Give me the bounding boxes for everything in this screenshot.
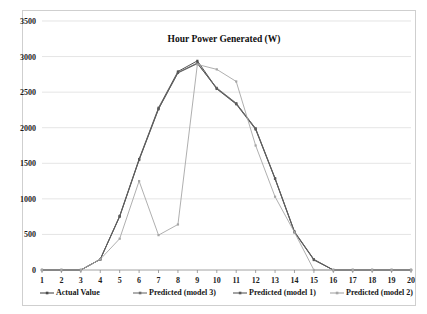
x-axis-tick-label: 17 [349, 276, 357, 285]
legend-swatch-marker [336, 292, 339, 295]
series-marker [80, 269, 82, 271]
x-axis-tick-label: 6 [137, 276, 141, 285]
series-marker [177, 71, 179, 73]
gridlines [42, 21, 411, 270]
series-marker [177, 223, 179, 225]
series-marker [274, 196, 276, 198]
x-axis-tick-label: 1 [40, 276, 44, 285]
legend-item-label[interactable]: Predicted (model 3) [149, 288, 216, 297]
legend-swatch-marker [139, 292, 142, 295]
y-axis-tick-label: 2500 [20, 88, 36, 97]
series-marker [255, 144, 257, 146]
legend-item-label[interactable]: Predicted (model 1) [249, 288, 316, 297]
x-axis-tick-label: 18 [368, 276, 376, 285]
x-axis-tick-label: 14 [290, 276, 298, 285]
y-axis-tick-label: 3500 [20, 17, 36, 26]
y-axis-tick-label: 3000 [20, 53, 36, 62]
series-marker [332, 269, 334, 271]
series-marker [157, 108, 159, 110]
series-marker [313, 259, 315, 261]
series-marker [274, 178, 276, 180]
series-marker [41, 269, 43, 271]
x-axis-tick-label: 16 [329, 276, 337, 285]
y-axis-tick-label: 500 [24, 230, 36, 239]
series-line [42, 64, 411, 270]
x-axis-tick-label: 15 [310, 276, 318, 285]
y-axis-tick-label: 2000 [20, 124, 36, 133]
series-marker [390, 269, 392, 271]
x-axis-tick-label: 13 [271, 276, 279, 285]
series-marker [371, 269, 373, 271]
x-axis-tick-label: 20 [407, 276, 415, 285]
y-axis-tick-label: 1500 [20, 159, 36, 168]
x-axis-tick-label: 2 [59, 276, 63, 285]
x-axis-tick-label: 11 [232, 276, 240, 285]
y-axis-tick-label: 1000 [20, 195, 36, 204]
x-axis-tick-label: 9 [195, 276, 199, 285]
series-marker [255, 128, 257, 130]
x-axis-tick-label: 19 [388, 276, 396, 285]
x-axis-tick-label: 4 [98, 276, 102, 285]
x-axis-tick-label: 5 [118, 276, 122, 285]
x-axis-tick-label: 3 [79, 276, 83, 285]
line-chart: 0500100015002000250030003500 12345678910… [0, 0, 427, 314]
series-marker [138, 180, 140, 182]
chart-title: Hour Power Generated (W) [168, 34, 281, 45]
legend-swatch-marker [46, 292, 49, 295]
data-series-group [41, 60, 412, 271]
series-marker [410, 269, 412, 271]
series-marker [119, 238, 121, 240]
series-marker [235, 103, 237, 105]
series-line [42, 63, 411, 270]
legend-swatch-marker [239, 292, 242, 295]
series-marker [352, 269, 354, 271]
legend-item-label[interactable]: Predicted (model 2) [346, 288, 413, 297]
series-marker [216, 68, 218, 70]
series-marker [196, 63, 198, 65]
series-marker [293, 231, 295, 233]
x-axis-tick-label: 8 [176, 276, 180, 285]
chart-card: 0500100015002000250030003500 12345678910… [0, 0, 427, 314]
series-marker [157, 234, 159, 236]
x-axis-tick-label: 12 [252, 276, 260, 285]
chart-legend[interactable]: Actual ValuePredicted (model 3)Predicted… [40, 288, 413, 297]
series-marker [99, 258, 101, 260]
x-axis-tick-label: 7 [157, 276, 161, 285]
y-axis-tick-labels: 0500100015002000250030003500 [20, 17, 36, 275]
series-marker [138, 159, 140, 161]
y-axis-tick-label: 0 [32, 266, 36, 275]
series-marker [216, 88, 218, 90]
series-marker [60, 269, 62, 271]
x-axis-tick-label: 10 [213, 276, 221, 285]
series-marker [196, 60, 198, 62]
series-marker [235, 80, 237, 82]
x-axis-tick-labels: 1234567891011121314151617181920 [40, 270, 415, 285]
legend-item-label[interactable]: Actual Value [56, 288, 100, 297]
series-marker [119, 216, 121, 218]
series-marker [313, 269, 315, 271]
